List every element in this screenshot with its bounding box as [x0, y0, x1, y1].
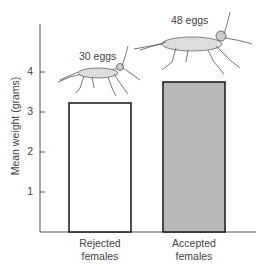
y-tick-label-4: 4 — [19, 65, 33, 77]
bar-chart: Mean weight (grams) 4 3 2 1 30 eggs 48 e… — [0, 0, 264, 269]
category-label-line-1: Accepted — [154, 237, 234, 250]
chart-canvas — [0, 0, 264, 269]
category-label-line-2: females — [154, 250, 234, 263]
category-label-rejected: Rejected females — [60, 237, 140, 263]
category-label-accepted: Accepted females — [154, 237, 234, 263]
y-tick-label-2: 2 — [19, 145, 33, 157]
annotation-30-eggs: 30 eggs — [79, 50, 116, 62]
y-tick-label-3: 3 — [19, 105, 33, 117]
annotation-48-eggs: 48 eggs — [171, 14, 208, 26]
bar-accepted-females — [163, 82, 225, 232]
y-axis-title: Mean weight (grams) — [9, 71, 21, 181]
bar-rejected-females — [69, 103, 131, 232]
category-label-line-2: females — [60, 250, 140, 263]
y-tick-label-1: 1 — [19, 185, 33, 197]
category-label-line-1: Rejected — [60, 237, 140, 250]
